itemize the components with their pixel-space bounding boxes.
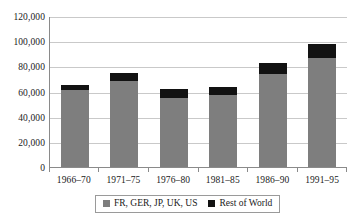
bar-stack-2 (160, 89, 188, 167)
chart-legend: FR, GER, JP, UK, US Rest of World (95, 195, 280, 213)
bar-column (256, 17, 289, 167)
x-axis-tick-label: 1986–90 (248, 175, 296, 186)
x-axis-tick-label: 1976–80 (149, 175, 197, 186)
y-axis-tick-label: 120,000 (0, 13, 45, 23)
bar-segment-rest-of-world (160, 89, 188, 98)
legend-swatch-icon (208, 200, 215, 207)
legend-label: Rest of World (219, 198, 272, 209)
bar-column (157, 17, 190, 167)
bar-segment-fr-ger-jp-uk-us (110, 81, 138, 167)
bar-stack-1 (110, 73, 138, 167)
bar-column (108, 17, 141, 167)
bar-segment-rest-of-world (308, 44, 336, 58)
legend-swatch-icon (103, 200, 110, 207)
bar-segment-fr-ger-jp-uk-us (61, 90, 89, 167)
y-axis-tick-label: 80,000 (0, 63, 45, 73)
bar-segment-fr-ger-jp-uk-us (259, 74, 287, 167)
x-axis-tick-label: 1991–95 (298, 175, 346, 186)
bar-stack-4 (259, 63, 287, 167)
x-axis-tick (247, 168, 248, 172)
bar-segment-rest-of-world (259, 63, 287, 74)
x-axis-tick (148, 168, 149, 172)
legend-label: FR, GER, JP, UK, US (114, 198, 197, 209)
y-axis-tick-label: 0 (0, 164, 45, 174)
bar-group (50, 17, 347, 167)
x-axis-tick (297, 168, 298, 172)
x-axis-tick-label: 1966–70 (50, 175, 98, 186)
bar-segment-rest-of-world (110, 73, 138, 82)
legend-item-rest-of-world: Rest of World (208, 198, 272, 209)
x-axis-tick (49, 168, 50, 172)
y-axis-tick-label: 100,000 (0, 38, 45, 48)
bar-segment-fr-ger-jp-uk-us (160, 98, 188, 167)
y-axis-tick-label: 40,000 (0, 114, 45, 124)
x-axis-tick-label: 1981–85 (199, 175, 247, 186)
x-axis-tick-label: 1971–75 (99, 175, 147, 186)
legend-item-fr-ger-jp-uk-us: FR, GER, JP, UK, US (103, 198, 197, 209)
bar-column (306, 17, 339, 167)
bar-column (207, 17, 240, 167)
bar-stack-5 (308, 44, 336, 167)
plot-area (49, 17, 347, 168)
x-axis-tick (198, 168, 199, 172)
bar-segment-rest-of-world (209, 87, 237, 95)
y-axis-tick-label: 20,000 (0, 139, 45, 149)
bar-column (58, 17, 91, 167)
x-axis-tick (346, 168, 347, 172)
bar-stack-3 (209, 87, 237, 167)
stacked-bar-chart: 120,000 100,000 80,000 60,000 40,000 20,… (0, 0, 358, 221)
x-axis-labels: 1966–70 1971–75 1976–80 1981–85 1986–90 … (49, 175, 347, 189)
x-axis-tick (98, 168, 99, 172)
bar-segment-fr-ger-jp-uk-us (308, 58, 336, 167)
y-axis-tick-label: 60,000 (0, 89, 45, 99)
bar-segment-fr-ger-jp-uk-us (209, 95, 237, 167)
bar-stack-0 (61, 85, 89, 167)
